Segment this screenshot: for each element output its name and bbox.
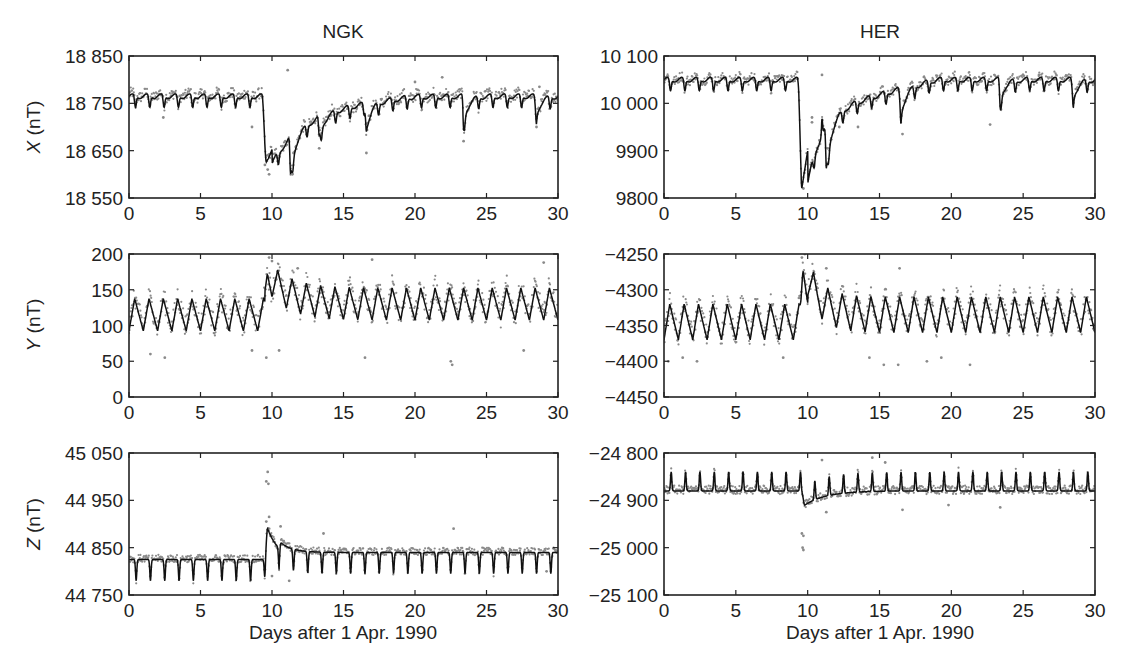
x-tick-label: 15 <box>333 600 354 621</box>
y-tick-label: −4350 <box>605 316 658 337</box>
ylabel-z: Z (nT) <box>23 498 44 551</box>
y-tick-label: 9800 <box>616 188 658 209</box>
y-tick-label: −4450 <box>605 387 658 408</box>
x-tick-label: 25 <box>1013 600 1034 621</box>
y-tick-label: −25 000 <box>589 538 658 559</box>
observed-points <box>128 69 559 176</box>
y-tick-label: 50 <box>102 351 123 372</box>
y-tick-label: −25 100 <box>589 585 658 606</box>
column-title-ngk: NGK <box>322 21 364 42</box>
y-tick-label: 9900 <box>616 141 658 162</box>
x-tick-label: 10 <box>797 203 818 224</box>
x-tick-label: 0 <box>659 203 670 224</box>
x-tick-label: 15 <box>333 402 354 423</box>
observed-points <box>128 256 559 366</box>
y-tick-label: 18 550 <box>65 188 123 209</box>
x-tick-label: 30 <box>547 402 568 423</box>
x-tick-label: 30 <box>1084 402 1105 423</box>
x-tick-label: 25 <box>476 600 497 621</box>
panel-her-x: 0510152025309800990010 00010 100 <box>600 46 1106 224</box>
x-tick-label: 10 <box>261 402 282 423</box>
y-tick-label: 44 950 <box>65 490 123 511</box>
x-tick-label: 15 <box>869 402 890 423</box>
x-tick-label: 10 <box>797 600 818 621</box>
figure-canvas: NGK HER 05101520253018 55018 65018 75018… <box>0 0 1127 665</box>
y-tick-label: 10 000 <box>600 93 658 114</box>
x-tick-label: 15 <box>869 600 890 621</box>
y-tick-label: 18 650 <box>65 141 123 162</box>
x-tick-label: 10 <box>261 600 282 621</box>
x-tick-label: 30 <box>1084 600 1105 621</box>
xlabel-right: Days after 1 Apr. 1990 <box>786 622 974 643</box>
x-tick-label: 15 <box>333 203 354 224</box>
x-tick-label: 0 <box>659 402 670 423</box>
x-tick-label: 20 <box>404 203 425 224</box>
model-line <box>664 272 1095 340</box>
x-tick-label: 0 <box>124 203 135 224</box>
model-line <box>129 529 558 581</box>
y-tick-label: 45 050 <box>65 443 123 464</box>
y-tick-label: −24 800 <box>589 443 658 464</box>
y-tick-label: 18 750 <box>65 93 123 114</box>
x-tick-label: 25 <box>476 203 497 224</box>
x-tick-label: 25 <box>476 402 497 423</box>
y-tick-label: −4300 <box>605 280 658 301</box>
x-tick-label: 5 <box>195 203 206 224</box>
x-tick-label: 30 <box>547 203 568 224</box>
y-tick-label: −4250 <box>605 244 658 265</box>
xlabel-left: Days after 1 Apr. 1990 <box>249 622 437 643</box>
x-tick-label: 10 <box>797 402 818 423</box>
y-tick-label: 18 850 <box>65 46 123 67</box>
x-tick-label: 0 <box>659 600 670 621</box>
x-tick-label: 25 <box>1013 402 1034 423</box>
x-tick-label: 10 <box>261 203 282 224</box>
x-tick-label: 5 <box>731 600 742 621</box>
x-tick-label: 25 <box>1013 203 1034 224</box>
observed-points <box>663 456 1096 551</box>
x-tick-label: 0 <box>124 600 135 621</box>
y-tick-label: 100 <box>91 316 123 337</box>
y-tick-label: 44 850 <box>65 538 123 559</box>
panel-ngk-y: 051015202530050100150200 <box>91 244 568 423</box>
plot-frame <box>129 56 558 198</box>
x-tick-label: 5 <box>195 600 206 621</box>
column-title-her: HER <box>860 21 900 42</box>
y-tick-label: 200 <box>91 244 123 265</box>
plot-frame <box>129 254 558 397</box>
x-tick-label: 5 <box>731 402 742 423</box>
plot-frame <box>664 56 1095 198</box>
x-tick-label: 20 <box>941 203 962 224</box>
ylabel-y: Y (nT) <box>23 299 44 352</box>
x-tick-label: 20 <box>941 402 962 423</box>
y-tick-label: −4400 <box>605 351 658 372</box>
y-tick-label: 44 750 <box>65 585 123 606</box>
panel-ngk-z: 05101520253044 75044 85044 95045 050 <box>65 443 569 621</box>
x-tick-label: 20 <box>941 600 962 621</box>
y-tick-label: −24 900 <box>589 490 658 511</box>
panel-ngk-x: 05101520253018 55018 65018 75018 850 <box>65 46 569 224</box>
panel-her-z: 051015202530−25 100−25 000−24 900−24 800 <box>589 443 1106 621</box>
x-tick-label: 30 <box>1084 203 1105 224</box>
x-tick-label: 5 <box>731 203 742 224</box>
y-tick-label: 150 <box>91 280 123 301</box>
panel-her-y: 051015202530−4450−4400−4350−4300−4250 <box>605 244 1106 423</box>
ylabel-x: X (nT) <box>23 101 44 155</box>
plot-frame <box>664 254 1095 397</box>
x-tick-label: 0 <box>124 402 135 423</box>
x-tick-label: 5 <box>195 402 206 423</box>
model-line <box>129 270 558 331</box>
model-line <box>664 77 1095 188</box>
x-tick-label: 30 <box>547 600 568 621</box>
x-tick-label: 20 <box>404 402 425 423</box>
y-tick-label: 0 <box>112 387 123 408</box>
x-tick-label: 15 <box>869 203 890 224</box>
x-tick-label: 20 <box>404 600 425 621</box>
y-tick-label: 10 100 <box>600 46 658 67</box>
